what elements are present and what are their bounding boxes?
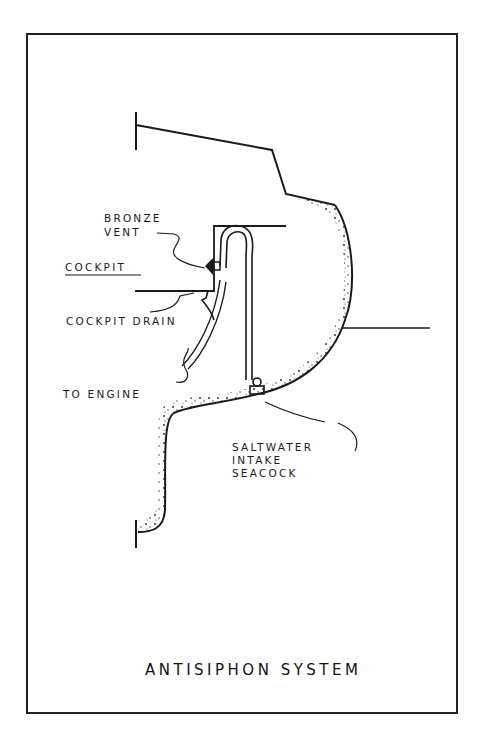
antisiphon-hose-outer [220, 226, 253, 380]
hull-outer-line [138, 205, 352, 532]
seacock-handle [253, 378, 261, 386]
antisiphon-hose-inner [226, 232, 246, 380]
hose-to-engine [182, 280, 226, 369]
leader-cockpit-drain [150, 293, 194, 312]
label-to-engine: TO ENGINE [62, 388, 141, 400]
antisiphon-diagram: BRONZE VENT COCKPIT COCKPIT DRAIN TO ENG… [0, 0, 483, 736]
label-seacock-1: SALTWATER [232, 441, 313, 453]
leader-bronze-vent [157, 233, 205, 268]
label-cockpit: COCKPIT [65, 261, 126, 273]
cabin-outline [136, 112, 335, 205]
figure-title: ANTISIPHON SYSTEM [145, 661, 361, 679]
label-cockpit-drain: COCKPIT DRAIN [66, 315, 177, 327]
cockpit-sole [135, 226, 286, 291]
figure-frame [27, 34, 457, 713]
bronze-vent [205, 258, 213, 275]
label-bronze-vent-1: BRONZE [104, 212, 162, 224]
label-seacock-2: INTAKE [232, 454, 282, 466]
label-seacock-3: SEACOCK [232, 467, 298, 479]
label-bronze-vent-2: VENT [104, 226, 141, 238]
